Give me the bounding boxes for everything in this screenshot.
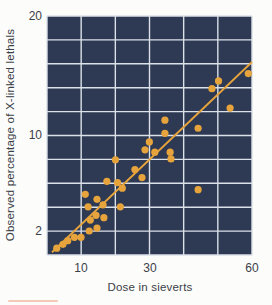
data-point (245, 70, 252, 77)
data-point (117, 203, 124, 210)
data-point (161, 130, 168, 137)
data-point (114, 179, 121, 186)
data-point (99, 201, 106, 208)
data-point (131, 166, 138, 173)
data-point (146, 138, 153, 145)
data-point (151, 149, 158, 156)
x-tick-30: 30 (143, 261, 157, 275)
data-point (82, 191, 89, 198)
data-point (167, 149, 174, 156)
data-point (195, 125, 202, 132)
data-point (86, 227, 93, 234)
data-point (87, 217, 94, 224)
data-point (93, 196, 100, 203)
data-point (215, 77, 222, 84)
x-axis-label: Dose in sieverts (107, 281, 192, 293)
y-axis-label: Observed percentage of X-linked lethals (4, 29, 16, 241)
data-point (93, 224, 100, 231)
data-point (195, 186, 202, 193)
data-point (112, 156, 119, 163)
data-point (208, 85, 215, 92)
data-point (141, 146, 148, 153)
data-point (103, 178, 110, 185)
data-point (92, 212, 99, 219)
data-point (100, 214, 107, 221)
data-point (71, 234, 78, 241)
x-tick-60: 60 (245, 261, 259, 275)
y-axis-ticks: 21020 (29, 9, 43, 238)
x-axis-ticks: 103060 (74, 261, 259, 275)
y-tick-2: 2 (35, 224, 42, 238)
data-point (85, 203, 92, 210)
data-point (119, 185, 126, 192)
data-point (161, 117, 168, 124)
scan-artifact (8, 300, 58, 302)
data-point (138, 174, 145, 181)
textbook-figure: 103060 21020 Dose in sieverts Observed p… (0, 0, 272, 305)
y-tick-10: 10 (29, 128, 43, 142)
y-tick-20: 20 (29, 9, 43, 23)
scatter-plot: 103060 21020 Dose in sieverts Observed p… (0, 0, 272, 305)
data-point (64, 237, 71, 244)
data-point (53, 245, 60, 252)
data-point (167, 155, 174, 162)
x-tick-10: 10 (74, 261, 88, 275)
data-point (77, 234, 84, 241)
data-point (226, 104, 233, 111)
